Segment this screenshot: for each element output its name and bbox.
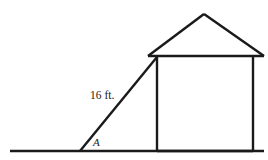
angle-label-a: A (92, 136, 100, 148)
geometry-figure: 16 ft. A (0, 0, 268, 160)
figure-canvas: 16 ft. A (0, 0, 268, 160)
ladder-line (80, 57, 157, 151)
roof-right-slope (204, 14, 264, 56)
roof-left-slope (148, 14, 204, 56)
ladder-length-label: 16 ft. (90, 89, 114, 101)
